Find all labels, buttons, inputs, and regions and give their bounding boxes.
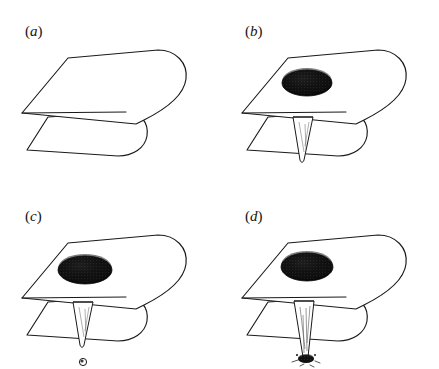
panel-c-droplet (79, 358, 86, 365)
panel-a-label: (a) (25, 23, 43, 40)
figure-canvas: (a) (b) (c) (0, 0, 439, 369)
panel-c-blob (58, 254, 112, 284)
panel-b-label: (b) (245, 23, 263, 40)
panel-b-blob (282, 68, 332, 96)
panel-c-label: (c) (25, 208, 42, 225)
panel-d-label: (d) (245, 208, 263, 225)
panel-d-blob (281, 251, 333, 281)
